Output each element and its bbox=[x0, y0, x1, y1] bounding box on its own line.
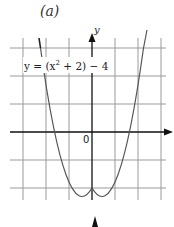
equation-suffix: + 2) − 4 bbox=[60, 60, 108, 72]
curve-left-stub bbox=[39, 38, 41, 48]
equation-label: y = (x2 + 2) − 4 bbox=[23, 57, 109, 73]
y-axis-label: y bbox=[94, 24, 100, 35]
x-axis-arrow-icon bbox=[164, 129, 173, 136]
curve-right-stub bbox=[144, 30, 148, 48]
equation-prefix: y = (x bbox=[24, 60, 55, 72]
bottom-arrow-icon bbox=[92, 216, 98, 227]
graph-canvas bbox=[0, 0, 174, 227]
origin-label: 0 bbox=[83, 134, 89, 145]
figure-title: (a) bbox=[40, 3, 59, 19]
